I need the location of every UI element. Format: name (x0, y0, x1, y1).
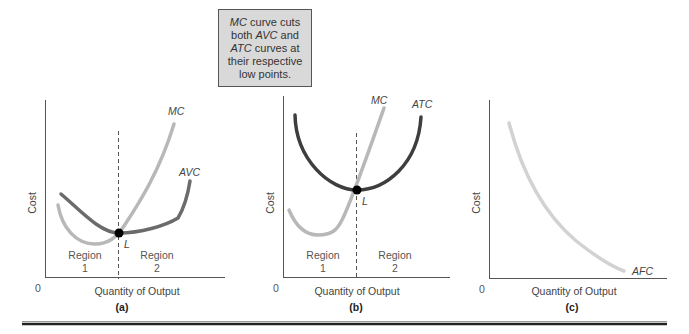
region2-num-b: 2 (392, 262, 398, 274)
origin-c: 0 (479, 283, 485, 295)
point-l-b (353, 186, 362, 195)
region1-label-a: Region (68, 249, 101, 261)
point-l-a (115, 229, 124, 238)
l-label-b: L (362, 195, 368, 207)
y-label-b: Cost (264, 192, 276, 214)
x-label-b: Quantity of Output (314, 285, 399, 297)
panel-label-b: (b) (349, 301, 362, 313)
avc-label-a: AVC (178, 166, 200, 178)
afc-curve-c (509, 123, 624, 271)
afc-label-c: AFC (631, 265, 653, 277)
panel-c: Cost 0 Quantity of Output (c) AFC (470, 100, 667, 313)
cost-curves-figure: MC curve cuts both AVC and ATC curves at… (0, 0, 689, 334)
atc-label-b: ATC (411, 98, 433, 110)
region1-num-a: 1 (82, 262, 88, 274)
mc-label-a: MC (168, 105, 185, 117)
origin-a: 0 (35, 282, 41, 294)
panel-a: Cost 0 Quantity of Output (a) MC AVC L R… (26, 100, 225, 313)
x-label-a: Quantity of Output (94, 285, 179, 297)
panel-b: Cost 0 Quantity of Output (b) MC ATC L R… (264, 94, 450, 313)
panel-label-a: (a) (116, 301, 129, 313)
mc-label-b: MC (371, 94, 388, 106)
region2-num-a: 2 (154, 262, 160, 274)
y-label-a: Cost (26, 192, 38, 214)
x-label-c: Quantity of Output (531, 285, 616, 297)
l-label-a: L (124, 238, 130, 250)
mc-curve-b (289, 108, 384, 235)
panel-label-c: (c) (566, 301, 579, 313)
region2-label-b: Region (378, 249, 411, 261)
origin-b: 0 (273, 282, 279, 294)
region1-num-b: 1 (320, 262, 326, 274)
region1-label-b: Region (306, 249, 339, 261)
region2-label-a: Region (140, 249, 173, 261)
y-label-c: Cost (470, 192, 482, 214)
